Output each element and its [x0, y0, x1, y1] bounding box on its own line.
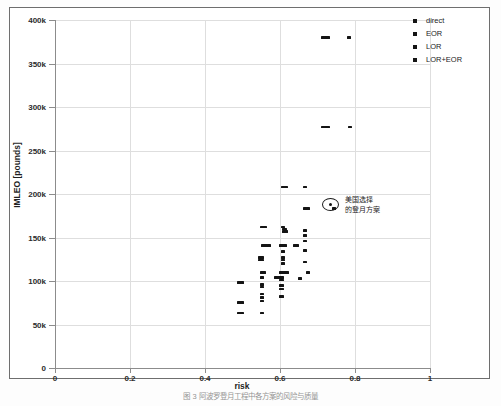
x-axis-line: [55, 368, 430, 369]
data-point: [281, 250, 285, 253]
x-tick: [130, 368, 131, 373]
data-point: [240, 312, 244, 315]
gridline-y: [55, 20, 430, 21]
y-tick-label: 350k: [28, 59, 46, 68]
data-point: [348, 126, 352, 129]
legend-marker-icon: [413, 45, 417, 49]
legend-marker-icon: [413, 32, 417, 36]
data-point: [279, 288, 283, 291]
gridline-x: [430, 20, 431, 368]
x-tick-label: 0.8: [349, 374, 360, 383]
data-point: [298, 277, 302, 280]
x-tick-label: 0.2: [124, 374, 135, 383]
data-point: [260, 259, 264, 262]
y-axis-line: [55, 20, 56, 368]
data-point: [279, 284, 283, 287]
data-point: [240, 301, 244, 304]
data-point: [295, 244, 299, 247]
y-tick-label: 300k: [28, 103, 46, 112]
y-tick-label: 50k: [33, 320, 46, 329]
y-tick-label: 400k: [28, 16, 46, 25]
legend-label: LOR: [426, 42, 441, 51]
y-tick-label: 250k: [28, 146, 46, 155]
annotation-line-2: 的登月方案: [345, 205, 405, 215]
legend-item-lor-eor[interactable]: LOR+EOR: [413, 53, 489, 66]
x-tick-label: 0.4: [199, 374, 210, 383]
data-point: [260, 293, 264, 296]
y-tick-label: 150k: [28, 233, 46, 242]
data-point: [263, 226, 267, 229]
data-point: [262, 271, 266, 274]
gridline-y: [55, 107, 430, 108]
data-point: [306, 207, 310, 210]
y-tick: [49, 64, 55, 65]
data-point: [326, 126, 330, 129]
x-tick: [205, 368, 206, 373]
legend-item-eor[interactable]: EOR: [413, 27, 489, 40]
gridline-y: [55, 325, 430, 326]
data-point: [282, 244, 286, 247]
data-point: [284, 186, 288, 189]
legend-item-lor[interactable]: LOR: [413, 40, 489, 53]
figure-caption-text: 图 3 阿波罗登月工程中各方案的风险与质量: [183, 390, 317, 401]
data-point: [303, 186, 307, 189]
legend-marker-icon: [413, 58, 417, 62]
data-point: [326, 36, 330, 39]
data-point: [281, 262, 285, 265]
data-point: [240, 281, 244, 284]
data-point: [347, 36, 351, 39]
gridline-x: [205, 20, 206, 368]
x-tick: [430, 368, 431, 373]
figure-caption: 图 3 阿波罗登月工程中各方案的风险与质量: [0, 390, 501, 406]
x-tick-label: 1: [428, 374, 432, 383]
y-axis-title: IMLEO [pounds]: [12, 142, 22, 208]
data-point: [303, 261, 307, 264]
annotation-line-1: 美国选择: [345, 195, 405, 205]
scatter-plot-area: 050k100k150k200k250k300k350k400k 00.20.4…: [55, 20, 430, 368]
data-point: [303, 249, 307, 252]
gridline-y: [55, 151, 430, 152]
x-tick: [355, 368, 356, 373]
data-point: [306, 271, 310, 274]
y-tick: [49, 151, 55, 152]
y-tick: [49, 325, 55, 326]
gridline-y: [55, 238, 430, 239]
legend-label: EOR: [426, 29, 442, 38]
y-tick: [49, 238, 55, 239]
data-point: [303, 234, 307, 237]
data-point: [285, 271, 289, 274]
chart-legend: directEORLORLOR+EOR: [413, 14, 489, 66]
data-point: [260, 296, 264, 299]
annotation-text: 美国选择 的登月方案: [345, 195, 405, 214]
y-tick-label: 0: [42, 364, 46, 373]
data-point: [281, 259, 285, 262]
data-point: [260, 300, 264, 303]
y-tick-label: 200k: [28, 190, 46, 199]
data-point: [260, 276, 264, 279]
y-tick: [49, 107, 55, 108]
gridline-x: [280, 20, 281, 368]
data-point: [303, 240, 307, 243]
data-point: [260, 312, 264, 315]
legend-label: direct: [426, 16, 444, 25]
x-tick-label: 0.6: [274, 374, 285, 383]
data-point: [284, 230, 288, 233]
gridline-y: [55, 64, 430, 65]
x-tick: [280, 368, 281, 373]
y-tick: [49, 20, 55, 21]
legend-marker-icon: [413, 19, 417, 23]
data-point: [279, 295, 283, 298]
y-tick-label: 100k: [28, 277, 46, 286]
gridline-x: [130, 20, 131, 368]
gridline-x: [355, 20, 356, 368]
selected-option-point: [329, 203, 332, 206]
data-point: [303, 229, 307, 232]
y-tick: [49, 194, 55, 195]
y-tick: [49, 281, 55, 282]
legend-item-direct[interactable]: direct: [413, 14, 489, 27]
x-tick-label: 0: [53, 374, 57, 383]
figure-container: IMLEO [pounds] risk 050k100k150k200k250k…: [0, 0, 501, 406]
data-point: [260, 286, 264, 289]
legend-label: LOR+EOR: [426, 55, 462, 64]
x-tick: [55, 368, 56, 373]
